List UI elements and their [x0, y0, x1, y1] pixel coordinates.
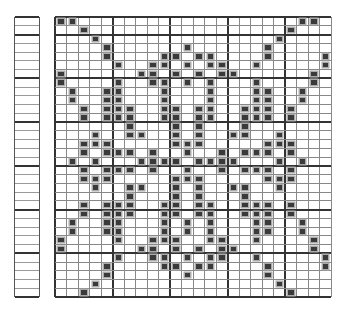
filled-cell	[254, 107, 260, 111]
filled-cell	[196, 54, 202, 58]
filled-cell	[139, 72, 145, 76]
strip-row-line	[15, 121, 39, 123]
strip-row-line	[15, 157, 39, 158]
strip-row-line	[15, 60, 39, 61]
filled-cell	[116, 255, 122, 259]
strip-row-line	[15, 288, 39, 289]
filled-cell	[254, 220, 260, 224]
filled-cell	[81, 203, 87, 207]
filled-cell	[185, 255, 191, 259]
filled-cell	[150, 168, 156, 172]
filled-cell	[173, 142, 179, 146]
filled-cell	[231, 72, 237, 76]
filled-cell	[300, 19, 306, 23]
filled-cell	[162, 115, 168, 119]
filled-cell	[162, 220, 168, 224]
filled-cell	[242, 203, 248, 207]
filled-cell	[58, 19, 64, 23]
filled-cell	[254, 238, 260, 242]
filled-cell	[288, 28, 294, 32]
filled-cell	[242, 194, 248, 198]
filled-cell	[70, 220, 76, 224]
filled-cell	[208, 159, 214, 163]
filled-cell	[277, 37, 283, 41]
filled-cell	[185, 63, 191, 67]
grid-row-line	[55, 209, 331, 211]
filled-cell	[323, 54, 329, 58]
grid-row-line	[55, 43, 331, 44]
filled-cell	[254, 80, 260, 84]
filled-cell	[81, 115, 87, 119]
filled-cell	[219, 247, 225, 251]
filled-cell	[265, 150, 271, 154]
filled-cell	[58, 80, 64, 84]
filled-cell	[173, 212, 179, 216]
filled-cell	[104, 212, 110, 216]
filled-cell	[242, 124, 248, 128]
filled-cell	[196, 159, 202, 163]
filled-cell	[70, 89, 76, 93]
strip-row-line	[15, 87, 39, 88]
grid-row-line	[55, 288, 331, 289]
filled-cell	[150, 238, 156, 242]
grid-row-line	[55, 200, 331, 201]
strip-row-line	[15, 77, 39, 79]
filled-cell	[185, 220, 191, 224]
grid-row-line	[55, 192, 331, 193]
grid-row-line	[55, 244, 331, 245]
grid-row-line	[55, 69, 331, 70]
filled-cell	[162, 159, 168, 163]
filled-cell	[93, 282, 99, 286]
filled-cell	[162, 264, 168, 268]
filled-cell	[173, 133, 179, 137]
filled-cell	[288, 107, 294, 111]
grid-row-line	[55, 139, 331, 140]
grid-row-line	[55, 87, 331, 88]
filled-cell	[150, 63, 156, 67]
filled-cell	[265, 115, 271, 119]
filled-cell	[300, 159, 306, 163]
filled-cell	[265, 142, 271, 146]
strip-row-line	[15, 192, 39, 193]
filled-cell	[231, 133, 237, 137]
filled-cell	[162, 212, 168, 216]
filled-cell	[323, 255, 329, 259]
grid-row-line	[55, 165, 331, 167]
strip-row-line	[15, 148, 39, 149]
filled-cell	[208, 63, 214, 67]
filled-cell	[288, 142, 294, 146]
grid-row-line	[55, 148, 331, 149]
filled-cell	[162, 238, 168, 242]
filled-cell	[231, 247, 237, 251]
filled-cell	[93, 37, 99, 41]
filled-cell	[93, 185, 99, 189]
grid-row-line	[55, 183, 331, 184]
filled-cell	[104, 177, 110, 181]
filled-cell	[127, 212, 133, 216]
grid-row-line	[55, 16, 331, 18]
grid-row-line	[55, 235, 331, 236]
filled-cell	[58, 238, 64, 242]
filled-cell	[288, 212, 294, 216]
grid-row-line	[55, 52, 331, 53]
filled-cell	[116, 238, 122, 242]
filled-cell	[127, 194, 133, 198]
filled-cell	[173, 238, 179, 242]
filled-cell	[127, 115, 133, 119]
filled-cell	[265, 220, 271, 224]
strip-row-line	[15, 34, 39, 36]
filled-cell	[219, 255, 225, 259]
filled-cell	[104, 203, 110, 207]
filled-cell	[242, 133, 248, 137]
filled-cell	[208, 80, 214, 84]
filled-cell	[242, 107, 248, 111]
filled-cell	[208, 229, 214, 233]
filled-cell	[150, 150, 156, 154]
filled-cell	[288, 177, 294, 181]
filled-cell	[277, 159, 283, 163]
filled-cell	[254, 115, 260, 119]
filled-cell	[208, 212, 214, 216]
filled-cell	[231, 159, 237, 163]
filled-cell	[288, 115, 294, 119]
filled-cell	[104, 45, 110, 49]
